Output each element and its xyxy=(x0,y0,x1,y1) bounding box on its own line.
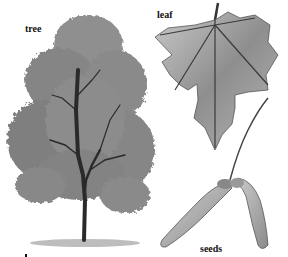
seed-wing-left xyxy=(161,182,232,247)
tree-canopy xyxy=(7,15,155,213)
seed-stem xyxy=(230,98,268,180)
leaf-label: leaf xyxy=(157,9,173,20)
illustration-canvas xyxy=(0,0,288,257)
seed-wing-right xyxy=(232,178,268,249)
seeds-label: seeds xyxy=(200,243,222,254)
tree-label: tree xyxy=(25,23,41,34)
seed-nut-right xyxy=(230,178,244,188)
leaf-illustration xyxy=(155,3,278,150)
leaf-stem xyxy=(215,3,218,20)
tree-illustration xyxy=(7,15,155,247)
